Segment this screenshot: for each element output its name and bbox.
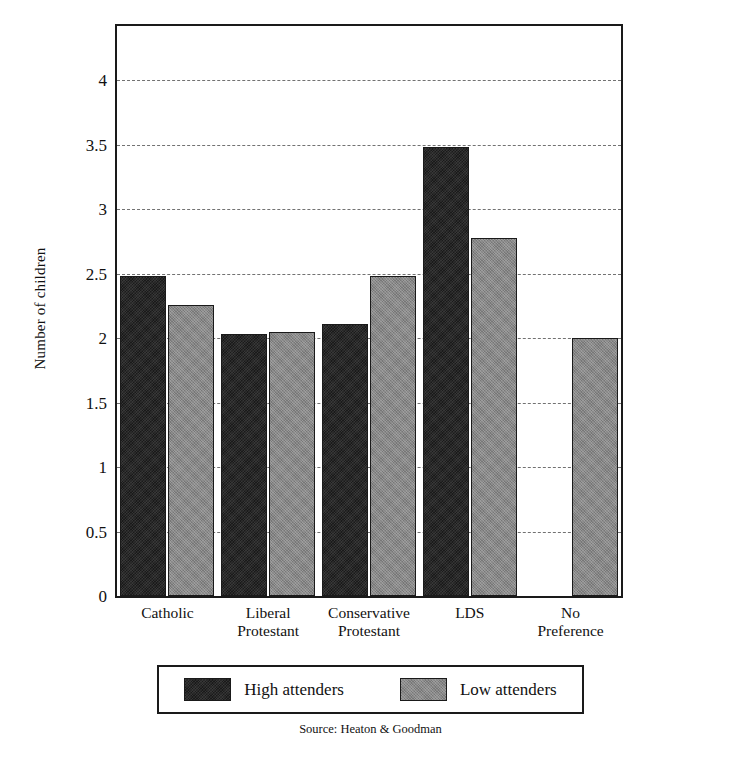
x-tick-label-line: No [561, 604, 580, 621]
source-note: Source: Heaton & Goodman [0, 722, 741, 737]
bar-lds-low-attenders[interactable] [471, 238, 517, 597]
y-tick-label: 3.5 [47, 136, 107, 153]
x-tick-label-line: Preference [491, 622, 651, 640]
gridline [117, 209, 621, 210]
legend-label: High attenders [244, 680, 344, 700]
legend-label: Low attenders [460, 680, 557, 700]
bar-no-preference-low-attenders[interactable] [572, 338, 618, 596]
bar-liberal-protestant-low-attenders[interactable] [269, 332, 315, 596]
legend-entry-low-attenders[interactable]: Low attenders [400, 678, 557, 701]
y-tick-label: 2.5 [47, 265, 107, 282]
legend-entry-high-attenders[interactable]: High attenders [184, 678, 344, 701]
chart-legend: High attendersLow attenders [157, 665, 584, 714]
legend-swatch-high-attenders [184, 678, 231, 701]
x-tick-label-line: LDS [455, 604, 484, 621]
bar-conservative-protestant-low-attenders[interactable] [370, 276, 416, 596]
y-tick-label: 0.5 [47, 523, 107, 540]
legend-swatch-low-attenders [400, 678, 447, 701]
bar-conservative-protestant-high-attenders[interactable] [322, 324, 368, 596]
y-tick-label: 4 [47, 72, 107, 89]
bar-lds-high-attenders[interactable] [423, 147, 469, 596]
y-tick-label: 2 [47, 330, 107, 347]
bar-catholic-high-attenders[interactable] [120, 276, 166, 596]
x-tick-label-no-preference: NoPreference [491, 604, 651, 640]
y-tick-label: 3 [47, 201, 107, 218]
x-tick-label-line: Catholic [141, 604, 194, 621]
chart-figure: Number of children 00.511.522.533.54 Cat… [0, 0, 741, 763]
gridline [117, 80, 621, 81]
plot-inner [117, 26, 621, 596]
gridline [117, 145, 621, 146]
y-tick-label: 1 [47, 459, 107, 476]
bar-liberal-protestant-high-attenders[interactable] [221, 334, 267, 596]
bar-catholic-low-attenders[interactable] [168, 305, 214, 596]
plot-area [115, 24, 623, 598]
y-axis-title: Number of children [32, 194, 49, 424]
x-tick-label-line: Liberal [246, 604, 291, 621]
y-tick-label: 0 [47, 588, 107, 605]
y-tick-label: 1.5 [47, 394, 107, 411]
gridline [117, 274, 621, 275]
x-tick-label-line: Protestant [289, 622, 449, 640]
